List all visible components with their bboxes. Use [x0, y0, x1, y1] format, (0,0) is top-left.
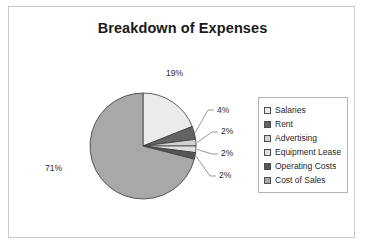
pie-chart-svg: [14, 48, 264, 238]
slice-label-equipment-lease: 2%: [221, 148, 233, 158]
slice-label-operating-costs: 2%: [219, 170, 231, 180]
pie-plot-area: 19% 4% 2% 2% 2% 71%: [14, 48, 264, 238]
slice-label-advertising: 2%: [221, 126, 233, 136]
legend-item-label: Advertising: [275, 131, 317, 145]
leader-lines-group: [195, 110, 218, 176]
legend-item-advertising[interactable]: Advertising: [264, 131, 343, 145]
legend-item-label: Rent: [275, 117, 293, 131]
legend-item-salaries[interactable]: Salaries: [264, 103, 343, 117]
leader-line: [197, 132, 218, 143]
legend-item-equipment-lease[interactable]: Equipment Lease: [264, 145, 343, 159]
leader-line: [196, 156, 216, 176]
legend-item-label: Equipment Lease: [275, 145, 341, 159]
leader-line: [195, 110, 214, 133]
legend-swatch-icon: [264, 163, 271, 170]
legend-swatch-icon: [264, 177, 271, 184]
legend-item-cost-of-sales[interactable]: Cost of Sales: [264, 173, 343, 187]
slice-label-salaries: 19%: [166, 68, 183, 78]
pie-slices-group: [90, 93, 196, 199]
legend-item-operating-costs[interactable]: Operating Costs: [264, 159, 343, 173]
legend-item-rent[interactable]: Rent: [264, 117, 343, 131]
legend-swatch-icon: [264, 107, 271, 114]
legend-item-label: Salaries: [275, 103, 306, 117]
legend-swatch-icon: [264, 149, 271, 156]
chart-title: Breakdown of Expenses: [0, 20, 365, 36]
leader-line: [197, 149, 218, 154]
legend-item-label: Operating Costs: [275, 159, 336, 173]
legend-swatch-icon: [264, 121, 271, 128]
legend-swatch-icon: [264, 135, 271, 142]
chart-legend: SalariesRentAdvertisingEquipment LeaseOp…: [258, 97, 348, 193]
slice-label-cost-of-sales: 71%: [45, 163, 62, 173]
chart-container: Breakdown of Expenses 19% 4% 2% 2% 2% 71…: [0, 0, 365, 248]
slice-label-rent: 4%: [217, 105, 229, 115]
legend-item-label: Cost of Sales: [275, 173, 326, 187]
